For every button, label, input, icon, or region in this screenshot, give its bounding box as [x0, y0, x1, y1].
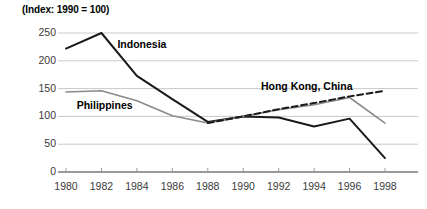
- series-label-hong-kong-china: Hong Kong, China: [261, 80, 353, 92]
- x-axis-tick-label: 1984: [117, 180, 157, 192]
- x-axis-tick-label: 1994: [294, 180, 334, 192]
- x-axis-tick-label: 1988: [188, 180, 228, 192]
- x-axis-tick-label: 1996: [330, 180, 370, 192]
- y-axis-tick-label: 250: [22, 26, 56, 38]
- series-label-indonesia: Indonesia: [117, 38, 166, 50]
- y-axis-tick-label: 50: [22, 137, 56, 149]
- x-axis-tick-label: 1982: [81, 180, 121, 192]
- y-axis-tick-label: 200: [22, 54, 56, 66]
- x-axis-tick-label: 1986: [152, 180, 192, 192]
- chart-plot-area: [0, 0, 427, 209]
- y-axis-tick-label: 0: [22, 165, 56, 177]
- x-axis-tick-label: 1980: [46, 180, 86, 192]
- x-axis-tick-label: 1998: [365, 180, 405, 192]
- series-label-philippines: Philippines: [77, 99, 133, 111]
- series-line: [66, 33, 385, 158]
- x-axis-tick-label: 1990: [223, 180, 263, 192]
- x-axis-tick-label: 1992: [259, 180, 299, 192]
- y-axis-tick-label: 150: [22, 82, 56, 94]
- chart-container: (Index: 1990 = 100) 05010015020025019801…: [0, 0, 427, 209]
- y-axis-tick-label: 100: [22, 109, 56, 121]
